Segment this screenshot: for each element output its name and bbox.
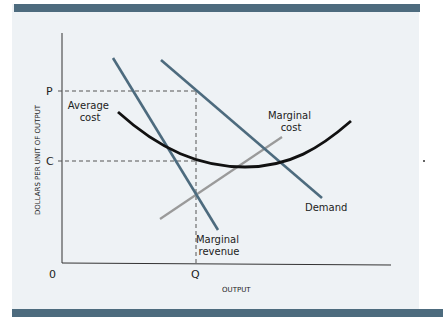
q-label: Q — [191, 268, 200, 281]
c-label: C — [46, 155, 54, 168]
y-axis-title: DOLLARS PER UNIT OF OUTPUT — [34, 104, 42, 215]
x-axis-title: OUTPUT — [222, 286, 251, 294]
x-axis — [62, 263, 391, 265]
marginal-revenue-label: Marginal revenue — [196, 234, 242, 257]
average-cost-label: Average cost — [68, 100, 112, 123]
marginal-cost-label: Marginal cost — [268, 110, 314, 133]
p-label: P — [46, 85, 53, 98]
stray-dot — [423, 160, 425, 162]
demand-label: Demand — [305, 202, 347, 213]
monopoly-diagram: P C 0 Q Average cost Marginal cost Margi… — [0, 0, 443, 317]
origin-label: 0 — [49, 268, 56, 281]
average-cost-curve — [118, 112, 351, 167]
marginal-revenue-curve — [113, 58, 218, 230]
